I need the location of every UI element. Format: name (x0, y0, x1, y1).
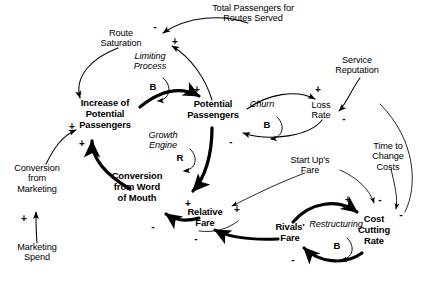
polarity-sign-l10: + (78, 139, 86, 149)
polarity-sign-l8: + (68, 122, 76, 132)
polarity-sign-l11: + (184, 199, 192, 209)
polarity-sign-l17: - (289, 255, 297, 265)
polarity-sign-l7: - (340, 114, 348, 124)
loop-name-limiting-process: Limiting Process (117, 51, 183, 72)
loop-name-restructuring: Restructuring (302, 219, 370, 229)
polarity-sign-l9: + (20, 214, 28, 224)
variable-increase-of-potential-passengers: Increase of Potential Passengers (66, 98, 144, 130)
polarity-sign-l3: - (76, 88, 84, 98)
polarity-sign-l12: - (149, 222, 157, 232)
variable-total-passengers-for-routes-served: Total Passengers for Routes Served (193, 3, 313, 24)
loop-name-churn: Churn (240, 99, 284, 109)
polarity-sign-l2: + (171, 37, 179, 47)
link-conversion-marketing-to-increase-potential (46, 130, 76, 164)
link-route-saturation-to-increase-potential (79, 48, 118, 98)
variable-start-ups-fare: Start Up's Fare (279, 155, 341, 176)
polarity-sign-l13: - (192, 234, 200, 244)
loop-marker-limiting-process: B (145, 82, 161, 92)
loop-marker-churn: B (259, 120, 275, 130)
loop-marker-restructuring: B (329, 241, 345, 251)
variable-marketing-spend: Marketing Spend (4, 242, 70, 263)
link-start-ups-fare-to-relative-fare (232, 173, 305, 206)
variable-loss-rate: Loss Rate (301, 100, 341, 121)
variable-potential-passengers: Potential Passengers (177, 99, 249, 121)
variable-conversion-from-marketing: Conversion from Marketing (1, 163, 73, 194)
link-marketing-spend-to-conversion-marketing (36, 212, 37, 243)
link-potential-passengers-to-conversion-word-mouth (193, 128, 212, 191)
polarity-sign-l15: + (233, 205, 241, 215)
polarity-sign-l4: + (193, 85, 201, 95)
causal-loop-diagram: Route Saturation Total Passengers for Ro… (0, 0, 427, 282)
polarity-sign-l6: - (227, 137, 235, 147)
polarity-sign-l19: - (397, 210, 405, 220)
variable-conversion-from-word-of-mouth: Conversion from Word of Mouth (96, 171, 178, 203)
polarity-sign-l16: + (344, 195, 352, 205)
variable-service-reputation: Service Reputation (322, 55, 392, 76)
variable-route-saturation: Route Saturation (86, 28, 156, 49)
loop-name-growth-engine: Growth Engine (134, 130, 192, 151)
polarity-sign-l18: - (376, 195, 384, 205)
variable-relative-fare: Relative Fare (176, 207, 234, 229)
variable-time-to-change-costs: Time to Change Costs (361, 141, 415, 172)
link-time-to-change-costs-to-cost-cutting-rate (391, 169, 397, 209)
polarity-sign-l1: - (151, 22, 159, 32)
loop-marker-growth-engine: R (172, 153, 188, 163)
link-service-reputation-to-loss-rate (339, 78, 360, 111)
polarity-sign-l5: + (314, 85, 322, 95)
